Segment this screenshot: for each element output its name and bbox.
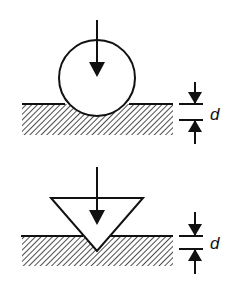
depth-dimension: d (179, 212, 220, 274)
depth-label: d (210, 234, 220, 253)
depth-label: d (210, 105, 220, 124)
arrow-down-icon (188, 92, 202, 104)
arrow-up-icon (188, 120, 202, 132)
depth-dimension: d (179, 82, 220, 144)
arrow-down-icon (188, 224, 202, 236)
arrow-up-icon (188, 249, 202, 261)
indentation-diagram: d d (0, 0, 243, 291)
conical-indenter-panel: d (21, 167, 220, 274)
spherical-indenter-panel: d (22, 20, 220, 144)
